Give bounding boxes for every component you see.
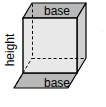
front-face [23,18,77,73]
edge-fragment-marks: · [102,28,106,35]
rectangular-prism-figure: base base height · [0,0,106,107]
label-base-bottom: base [0,77,106,89]
label-height: height [4,22,16,78]
label-base-top: base [0,5,106,17]
